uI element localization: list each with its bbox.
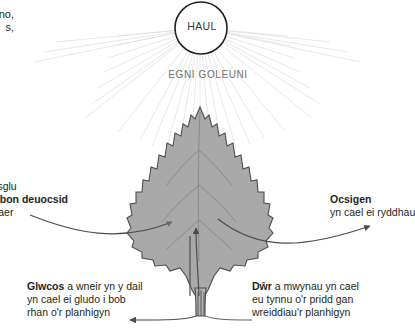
- water-label: Dŵr a mwynau yn cael eu tynnu o'r pridd …: [252, 280, 359, 318]
- glucose-line-1: Glwcos a wneir yn y dail: [27, 280, 143, 293]
- water-term: Dŵr: [252, 280, 272, 292]
- light-energy-label: EGNI GOLEUNI: [150, 69, 266, 81]
- glucose-term: Glwcos: [27, 280, 64, 292]
- co2-line-2: carbon deuocsid: [0, 193, 68, 206]
- oxygen-line-2: yn cael ei ryddhau: [330, 206, 415, 219]
- co2-line-3: o'r aer: [0, 206, 68, 219]
- water-line-1: Dŵr a mwynau yn cael: [252, 280, 359, 293]
- clipped-note: no, s,: [0, 8, 14, 35]
- glucose-line-2: yn cael ei gludo i bob: [27, 293, 143, 306]
- clipped-note-line2: s,: [0, 21, 14, 34]
- oxygen-line-1: Ocsigen: [330, 193, 415, 206]
- serrated-leaf-shape: [127, 107, 273, 303]
- oxygen-label: Ocsigen yn cael ei ryddhau: [330, 193, 415, 219]
- clipped-note-line1: no,: [0, 8, 14, 21]
- glucose-line-3: rhan o'r planhigyn: [27, 306, 143, 319]
- water-line-1-rest: a mwynau yn cael: [272, 280, 359, 292]
- carbon-dioxide-label: Casglu carbon deuocsid o'r aer: [0, 180, 68, 218]
- photosynthesis-diagram: HAUL EGNI GOLEUNI no, s, Casglu carbon d…: [0, 0, 415, 330]
- water-line-3: wreiddiau'r planhigyn: [252, 306, 359, 319]
- water-root-line: [205, 316, 252, 320]
- sun-label: HAUL: [182, 20, 222, 33]
- glucose-label: Glwcos a wneir yn y dail yn cael ei glud…: [27, 280, 143, 318]
- water-line-2: eu tynnu o'r pridd gan: [252, 293, 359, 306]
- co2-line-1: Casglu: [0, 180, 68, 193]
- glucose-line-1-rest: a wneir yn y dail: [64, 280, 142, 292]
